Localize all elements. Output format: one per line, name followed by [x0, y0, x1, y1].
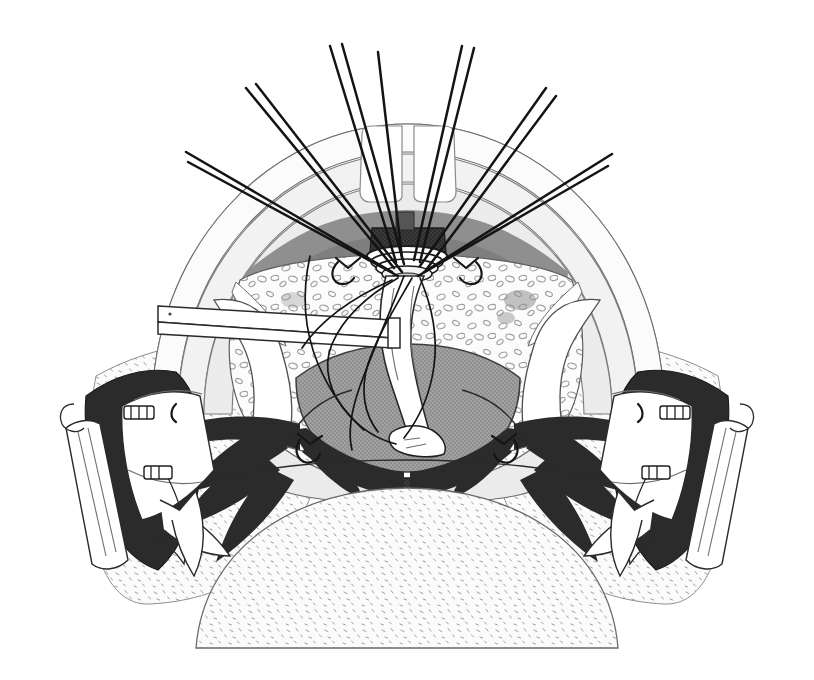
- figure-root: Surgical operative field illustration Tr…: [0, 0, 814, 680]
- retractor-clip: [124, 406, 154, 419]
- surgical-illustration-canvas: [0, 0, 814, 680]
- retractor-clip: [144, 466, 172, 479]
- retractor-clip: [642, 466, 670, 479]
- retractor-clip: [660, 406, 690, 419]
